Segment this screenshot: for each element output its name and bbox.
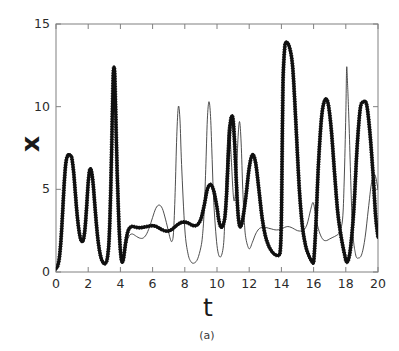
figure-panel: x t (a) 02468101214161820051015	[0, 0, 399, 351]
series-layer	[54, 40, 380, 270]
x-tick-label: 20	[358, 276, 398, 291]
series-clip-group	[54, 40, 380, 270]
x-axis-label: t	[190, 292, 226, 322]
figure-caption: (a)	[177, 326, 237, 344]
y-axis-label: x	[12, 126, 48, 162]
y-tick-label: 0	[8, 264, 50, 279]
series-line-thin-curve	[56, 67, 378, 269]
y-tick-label: 10	[8, 99, 50, 114]
series-line-thick-marked-curve	[56, 42, 378, 269]
series-markers-thick-marked-curve	[54, 40, 380, 270]
axes-layer	[56, 24, 378, 272]
y-tick-label: 5	[8, 181, 50, 196]
plot-frame	[56, 24, 378, 272]
y-tick-label: 15	[8, 16, 50, 31]
